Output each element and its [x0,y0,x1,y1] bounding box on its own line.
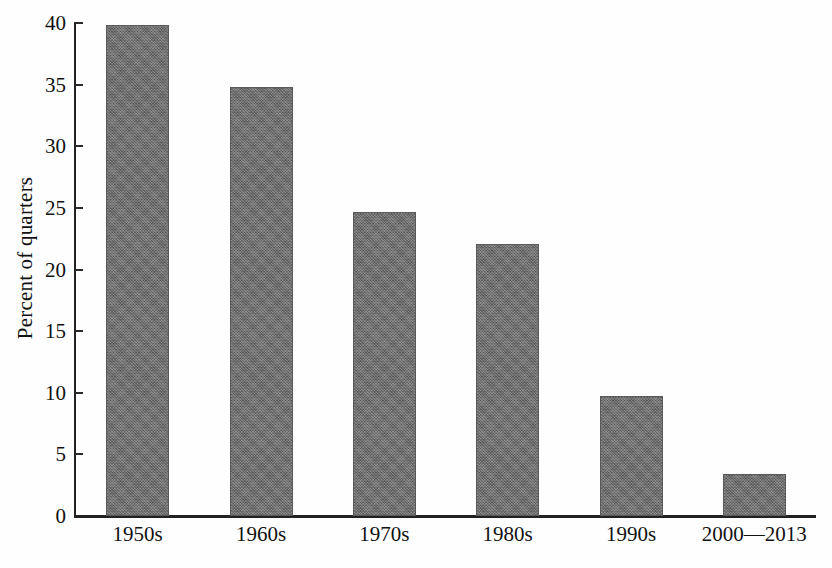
bar [230,87,293,516]
y-tick-label: 30 [20,136,66,157]
y-tick-label: 35 [20,74,66,95]
y-tick-label: 10 [20,382,66,403]
y-tick-label: 15 [20,321,66,342]
bar [476,244,539,516]
bar [723,474,786,516]
x-axis-tick-labels: 1950s1960s1970s1980s1990s2000—2013 [76,519,816,553]
y-tick-label: 20 [20,259,66,280]
bar-chart-figure: Percent of quarters 0510152025303540 195… [0,0,832,568]
y-tick-label: 25 [20,197,66,218]
x-tick-label: 2000—2013 [674,519,832,549]
y-axis-tick-labels: 0510152025303540 [14,0,66,568]
bar [106,25,169,516]
bar [600,396,663,516]
plot-area [76,23,816,516]
y-tick-label: 40 [20,13,66,34]
figure-caption-strip [0,556,832,568]
y-tick-label: 5 [20,444,66,465]
bar [353,212,416,516]
